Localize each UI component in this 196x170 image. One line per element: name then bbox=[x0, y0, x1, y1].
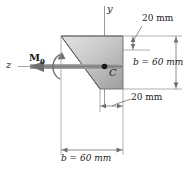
dim-label-b-right: b = 60 mm bbox=[133, 58, 183, 67]
dim-label-20mm-top: 20 mm bbox=[142, 14, 173, 23]
dim-arrow-b-right-up bbox=[174, 37, 179, 43]
dim-label-20mm-bottom: 20 mm bbox=[131, 93, 162, 102]
cross-section-shape bbox=[61, 36, 123, 89]
moment-label: M0 bbox=[29, 53, 45, 65]
moment-symbol: M bbox=[29, 52, 40, 63]
dim-arrow-b-right-down bbox=[174, 83, 179, 89]
dim-arrow-20mm-bottom-left bbox=[101, 104, 106, 109]
centroid-label: C bbox=[109, 68, 117, 78]
figure-canvas bbox=[0, 0, 196, 170]
dim-label-b-right-text: b = 60 mm bbox=[133, 57, 183, 67]
dim-label-b-bottom: b = 60 mm bbox=[61, 154, 111, 163]
moment-subscript: 0 bbox=[40, 57, 45, 66]
y-axis-label: y bbox=[107, 4, 113, 14]
dim-arrow-20mm-top-down bbox=[131, 44, 136, 49]
leader-20mm-bottom bbox=[112, 99, 131, 106]
z-axis-label: z bbox=[6, 60, 11, 70]
cross-section-figure: y z C M0 20 mm b = 60 mm 20 mm b = 60 mm bbox=[0, 0, 196, 170]
dim-arrow-20mm-bottom-right bbox=[117, 104, 122, 109]
dim-arrow-b-bottom-left bbox=[62, 148, 68, 153]
dim-label-b-bottom-text: b = 60 mm bbox=[61, 153, 111, 163]
centroid-dot bbox=[102, 64, 108, 70]
dim-arrow-b-bottom-right bbox=[117, 148, 123, 153]
